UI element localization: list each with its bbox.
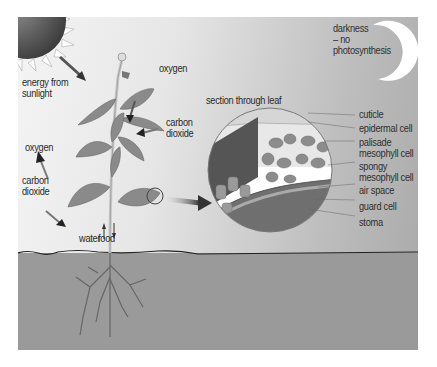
leaf-section — [208, 107, 338, 237]
label-air-space: air space — [359, 185, 394, 196]
label-food: food — [98, 233, 115, 244]
diagram-frame: energy from sunlight oxygen oxygen carbo… — [18, 17, 418, 350]
label-carbon-dioxide-right: carbon dioxide — [166, 117, 193, 139]
label-carbon-dioxide-left: carbon dioxide — [22, 175, 49, 197]
label-epidermal-cell: epidermal cell — [359, 123, 412, 134]
ground-line — [18, 251, 418, 255]
label-cuticle: cuticle — [359, 109, 383, 120]
roots — [76, 253, 146, 337]
label-oxygen-top: oxygen — [159, 63, 187, 74]
label-guard-cell: guard cell — [359, 201, 396, 212]
label-energy-from-sunlight: energy from sunlight — [22, 77, 68, 99]
label-stoma: stoma — [359, 217, 383, 228]
label-section-through-leaf: section through leaf — [206, 95, 281, 106]
label-oxygen-left: oxygen — [25, 142, 53, 153]
label-palisade-mesophyll-cell: palisade mesophyll cell — [359, 137, 413, 159]
label-spongy-mesophyll-cell: spongy mesophyll cell — [359, 161, 413, 183]
label-darkness: darkness – no photosynthesis — [333, 23, 391, 56]
diagram-art — [18, 17, 418, 350]
